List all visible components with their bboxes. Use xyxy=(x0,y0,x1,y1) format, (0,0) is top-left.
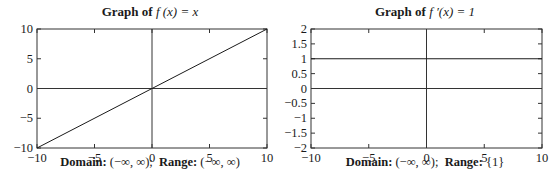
chart-f-caption: Domain: (−∞, ∞); Range: (−∞, ∞) xyxy=(20,155,280,170)
chart-f-plot: −10−50510−10−50510 xyxy=(0,0,280,181)
chart-f: Graph of f (x) = x −10−50510−10−50510 Do… xyxy=(0,0,280,181)
y-tick-label: −1 xyxy=(294,111,307,125)
y-tick-label: −5 xyxy=(20,111,33,125)
range-label: Range: xyxy=(159,155,197,169)
range-value: {1} xyxy=(486,155,504,169)
domain-label: Domain: xyxy=(346,155,393,169)
y-tick-label: 0 xyxy=(301,82,307,96)
y-tick-label: −0.5 xyxy=(284,96,307,110)
y-tick-label: 5 xyxy=(27,52,33,66)
y-tick-label: 0.5 xyxy=(291,67,307,81)
chart-fprime-plot: −10−50510−2−1.5−1−0.500.511.52 xyxy=(275,0,555,181)
domain-label: Domain: xyxy=(60,155,107,169)
y-tick-label: 10 xyxy=(21,22,34,36)
chart-fprime-caption: Domain: (−∞, ∞); Range: {1} xyxy=(295,155,555,170)
y-tick-label: 0 xyxy=(27,82,33,96)
chart-fprime: Graph of f ′(x) = 1 −10−50510−2−1.5−1−0.… xyxy=(275,0,555,181)
range-value: (−∞, ∞) xyxy=(200,155,239,169)
domain-value: (−∞, ∞); xyxy=(395,155,438,169)
y-tick-label: −2 xyxy=(294,141,307,155)
y-tick-label: 2 xyxy=(301,22,307,36)
y-tick-label: 1 xyxy=(301,52,307,66)
domain-value: (−∞, ∞); xyxy=(110,155,153,169)
y-tick-label: −1.5 xyxy=(284,126,307,140)
y-tick-label: −10 xyxy=(13,141,33,155)
y-tick-label: 1.5 xyxy=(291,37,307,51)
range-label: Range: xyxy=(445,155,483,169)
